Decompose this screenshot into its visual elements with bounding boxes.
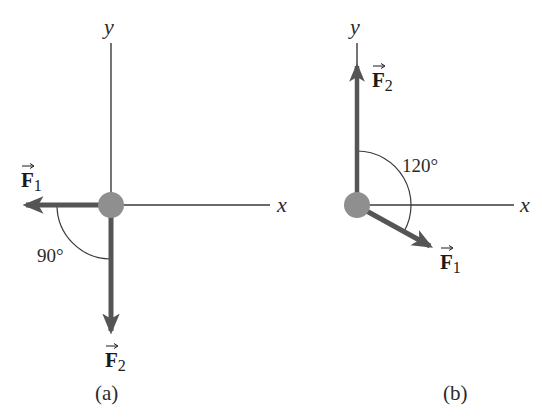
- panel-b-vector-f1-arrow: [363, 209, 430, 246]
- svg-text:F2: F2: [372, 68, 393, 94]
- force-vector-figure: y x F1 F2 90° (a): [0, 0, 542, 420]
- panel-a-y-label: y: [102, 14, 114, 39]
- svg-text:F2: F2: [105, 348, 126, 374]
- panel-b: y x F2 F1 120° (b): [344, 14, 530, 405]
- panel-a-particle: [98, 192, 124, 218]
- panel-b-caption: (b): [443, 381, 468, 405]
- panel-b-angle-label: 120°: [402, 155, 438, 176]
- panel-b-f2-label: F2: [372, 64, 393, 95]
- panel-a-angle-label: 90°: [37, 245, 64, 266]
- panel-b-x-label: x: [519, 192, 530, 217]
- panel-a: y x F1 F2 90° (a): [21, 14, 287, 405]
- panel-a-x-label: x: [276, 192, 287, 217]
- svg-text:F1: F1: [440, 250, 461, 276]
- panel-b-f1-label: F1: [440, 246, 461, 277]
- panel-b-particle: [344, 192, 370, 218]
- panel-a-f2-label: F2: [105, 344, 126, 375]
- panel-a-f1-label: F1: [21, 164, 42, 195]
- svg-text:F1: F1: [21, 168, 42, 194]
- panel-a-caption: (a): [95, 381, 118, 405]
- panel-b-y-label: y: [348, 14, 360, 39]
